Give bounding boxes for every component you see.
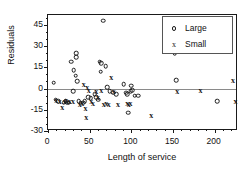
data-point-large	[52, 81, 57, 86]
x-tick	[215, 129, 216, 133]
y-tick-label: -15	[10, 104, 43, 114]
x-tick-minor	[140, 129, 141, 131]
x-tick-label: 200	[201, 136, 227, 146]
x-tick-minor	[65, 129, 66, 131]
legend-label-large: Large	[185, 23, 207, 33]
scatter-plot-figure: xxxxxxxxxxxxxxxxxxxxxxxxxxxxxxxxx 453015…	[0, 0, 248, 177]
data-point-large	[69, 59, 74, 64]
data-point-large	[75, 79, 80, 84]
data-point-small: x	[110, 87, 117, 96]
y-tick-minor	[46, 117, 48, 118]
x-tick-minor	[156, 129, 157, 131]
data-point-large	[73, 74, 78, 79]
y-tick-minor	[46, 32, 48, 33]
x-tick-label: 100	[117, 136, 143, 146]
x-tick-minor	[198, 129, 199, 131]
data-point-large	[103, 64, 108, 69]
x-tick-minor	[165, 129, 166, 131]
y-tick-minor	[46, 39, 48, 40]
data-point-large	[130, 88, 135, 93]
data-point-large	[122, 82, 127, 87]
y-tick	[44, 89, 48, 90]
data-point-large	[72, 68, 77, 73]
y-tick-minor	[46, 96, 48, 97]
y-tick-minor	[46, 124, 48, 125]
y-tick-label: 0	[10, 83, 43, 93]
data-point-large	[126, 110, 131, 115]
data-point-large	[101, 18, 106, 23]
data-point-large	[215, 99, 220, 104]
data-point-small: x	[230, 76, 237, 85]
data-point-large	[74, 55, 79, 60]
x-tick-label: 0	[34, 136, 60, 146]
chart-legend: Large x Small	[162, 16, 233, 54]
x-tick	[48, 129, 49, 133]
y-tick	[44, 110, 48, 111]
x-tick-minor	[206, 129, 207, 131]
y-tick-minor	[46, 81, 48, 82]
data-point-small: x	[105, 100, 112, 109]
circle-icon	[163, 24, 185, 33]
data-point-small: x	[108, 73, 115, 82]
data-point-small: x	[98, 85, 105, 94]
x-tick-minor	[73, 129, 74, 131]
data-point-large	[136, 93, 141, 98]
y-tick-minor	[46, 103, 48, 104]
x-tick	[173, 129, 174, 133]
data-point-small: x	[127, 98, 134, 107]
data-point-small: x	[174, 87, 181, 96]
zero-reference-line	[48, 89, 236, 90]
data-point-small: x	[115, 100, 122, 109]
x-tick-minor	[231, 129, 232, 131]
x-tick-minor	[148, 129, 149, 131]
y-tick-minor	[46, 74, 48, 75]
x-tick	[90, 129, 91, 133]
x-tick-minor	[98, 129, 99, 131]
data-point-small: x	[83, 112, 90, 121]
y-tick	[44, 25, 48, 26]
data-point-large	[98, 69, 103, 74]
x-tick-label: 50	[76, 136, 102, 146]
x-tick-minor	[223, 129, 224, 131]
data-point-small: x	[148, 111, 155, 120]
data-point-small: x	[232, 97, 239, 106]
y-tick-minor	[46, 60, 48, 61]
legend-label-small: Small	[185, 39, 206, 49]
x-tick-minor	[115, 129, 116, 131]
y-tick-label: -30	[10, 125, 43, 135]
x-tick-minor	[106, 129, 107, 131]
data-point-large	[71, 89, 76, 94]
y-tick	[44, 46, 48, 47]
data-point-large	[174, 78, 179, 83]
x-tick-minor	[190, 129, 191, 131]
data-point-small: x	[85, 85, 92, 94]
legend-entry-large: Large	[163, 20, 232, 36]
x-tick-minor	[181, 129, 182, 131]
x-axis-title: Length of service	[47, 152, 237, 162]
x-tick-label: 150	[159, 136, 185, 146]
data-point-small: x	[197, 85, 204, 94]
y-tick-minor	[46, 53, 48, 54]
legend-entry-small: x Small	[163, 36, 232, 52]
y-axis-title: Residuals	[6, 14, 16, 76]
x-tick-minor	[81, 129, 82, 131]
x-tick-minor	[56, 129, 57, 131]
y-tick-minor	[46, 18, 48, 19]
x-tick	[131, 129, 132, 133]
x-icon: x	[163, 40, 185, 49]
x-tick-minor	[123, 129, 124, 131]
y-tick	[44, 67, 48, 68]
